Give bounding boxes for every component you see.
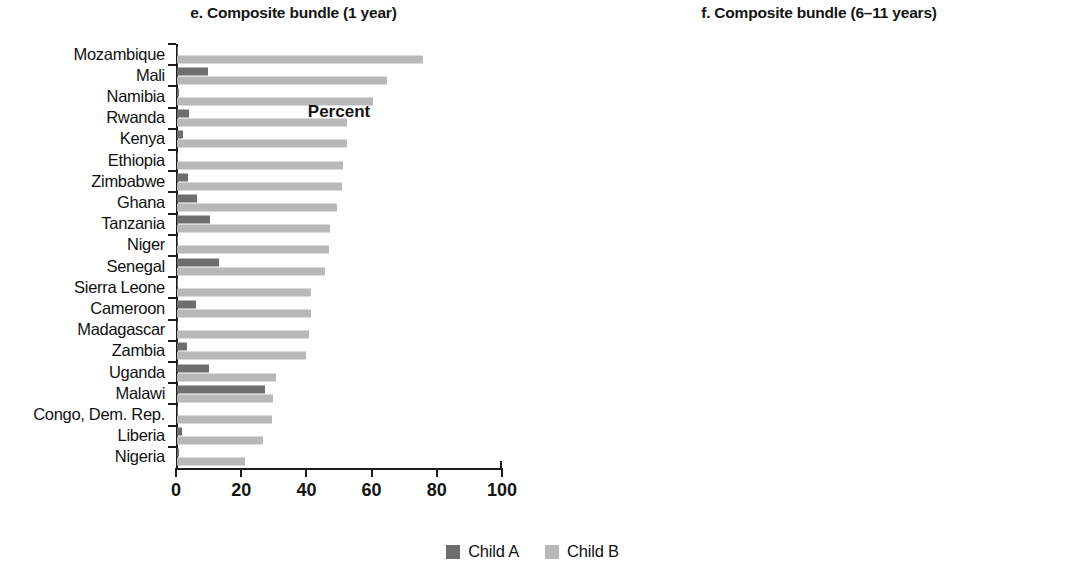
x-axis-tick-label: 0 [171,480,181,501]
bar-child-a [177,258,219,266]
y-axis-category-label: Cameroon [90,299,165,318]
y-axis-category-label: Ghana [117,193,165,212]
chart-panel-e: e. Composite bundle (1 year) MozambiqueM… [0,0,532,540]
y-axis-tick [168,255,176,257]
y-axis-tick [168,43,176,45]
y-axis-category-label: Nigeria [115,448,165,467]
bar-child-a [177,343,187,351]
bar-group [177,258,503,275]
y-axis-category-label: Ethiopia [108,151,165,170]
y-axis-category-label: Zimbabwe [91,172,165,191]
y-axis-category-label: Malawi [115,384,165,403]
bar-group [177,46,503,63]
y-axis-tick [168,170,176,172]
bar-child-a [177,195,197,203]
bar-child-b [177,225,330,233]
bar-child-b [177,55,423,63]
y-axis-tick [168,64,176,66]
panel-e-title: e. Composite bundle (1 year) [0,4,532,22]
bar-child-a [177,364,209,372]
bar-group [177,428,503,445]
bar-group [177,131,503,148]
chart-row: Congo, Dem. Rep. [176,404,502,425]
bar-child-a [177,173,188,181]
bar-group [177,301,503,318]
y-axis-category-label: Kenya [120,130,165,149]
chart-panel-f: f. Composite bundle (6–11 years) Zimbabw… [533,0,1065,540]
y-axis-category-label: Niger [127,236,165,255]
chart-row: Nigeria [176,447,502,468]
chart-row: Tanzania [176,214,502,235]
y-axis-tick [168,234,176,236]
panel-e-x-ticks: 020406080100 [176,468,502,478]
bar-group [177,67,503,84]
bar-child-a [177,89,179,97]
y-axis-category-label: Rwanda [106,108,165,127]
chart-row: Mali [176,65,502,86]
legend-label: Child B [567,542,619,561]
chart-row: Zambia [176,341,502,362]
legend-swatch-icon [545,545,559,559]
chart-row: Liberia [176,426,502,447]
x-axis-tick [175,468,177,477]
y-axis-category-label: Senegal [107,257,165,276]
y-axis-tick [168,149,176,151]
panel-f-title: f. Composite bundle (6–11 years) [533,4,1065,22]
bar-child-a [177,428,182,436]
legend-item: Child B [545,542,619,561]
bar-child-b [177,437,263,445]
bar-child-b [177,458,245,466]
bar-child-a [177,407,178,415]
bar-child-a [177,152,178,160]
bar-child-b [177,331,309,339]
chart-row: Ghana [176,192,502,213]
x-axis-tick [501,468,503,477]
legend-label: Child A [468,542,519,561]
x-axis-tick [436,468,438,477]
chart-row: Kenya [176,129,502,150]
bar-child-a [177,131,183,139]
y-axis-category-label: Sierra Leone [74,278,165,297]
chart-row: Madagascar [176,320,502,341]
y-axis-category-label: Tanzania [101,214,165,233]
bar-group [177,322,503,339]
chart-row: Senegal [176,256,502,277]
bar-child-b [177,161,343,169]
bar-child-b [177,416,272,424]
y-axis-tick [168,191,176,193]
bar-group [177,407,503,424]
bar-child-a [177,67,208,75]
y-axis-category-label: Namibia [107,87,165,106]
y-axis-category-label: Mozambique [74,45,165,64]
bar-child-b [177,373,276,381]
y-axis-tick [168,382,176,384]
y-axis-tick [168,319,176,321]
y-axis-tick [168,403,176,405]
chart-row: Sierra Leone [176,277,502,298]
bar-group [177,216,503,233]
bar-child-b [177,140,347,148]
y-axis-category-label: Mali [136,66,165,85]
bar-child-a [177,385,265,393]
legend-swatch-icon [446,545,460,559]
bar-group [177,364,503,381]
y-axis-category-label: Uganda [109,363,165,382]
x-axis-tick-label: 40 [296,480,316,501]
x-axis-tick-label: 80 [427,480,447,501]
y-axis-category-label: Congo, Dem. Rep. [33,405,165,424]
panel-e-x-axis-title: Percent [176,102,502,122]
bar-group [177,449,503,466]
bar-child-a [177,449,179,457]
bar-child-a [177,301,196,309]
x-axis-tick [305,468,307,477]
bar-group [177,152,503,169]
bar-group [177,173,503,190]
y-axis-category-label: Zambia [112,342,165,361]
y-axis-tick [168,107,176,109]
bar-child-b [177,204,337,212]
y-axis-tick [168,425,176,427]
x-axis-tick [371,468,373,477]
bar-group [177,279,503,296]
legend-item: Child A [446,542,519,561]
chart-row: Ethiopia [176,150,502,171]
